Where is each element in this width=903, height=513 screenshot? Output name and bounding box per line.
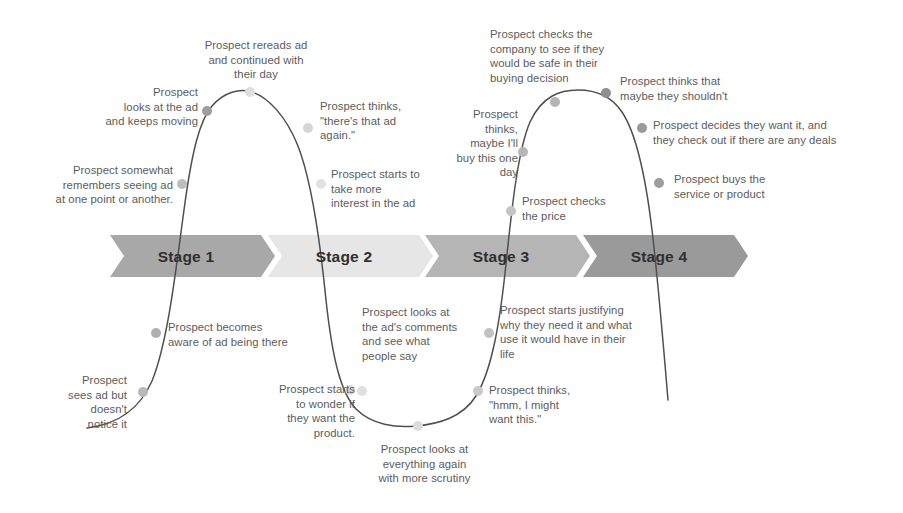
touchpoint-dot-thinks-maybe-they-shouldnt[interactable] (601, 88, 611, 98)
annotation-decides-they-want-it-check-deals: Prospect decides they want it, and they … (653, 118, 893, 147)
annotation-looks-at-ads-comments: Prospect looks at the ad's comments and … (362, 305, 492, 363)
touchpoint-dot-hmm-i-might-want-this[interactable] (473, 386, 483, 396)
annotation-rereads-ad-continued-day: Prospect rereads ad and continued with t… (186, 38, 326, 82)
touchpoint-dot-checks-company-safe-buying-decision[interactable] (550, 97, 560, 107)
annotation-checks-the-price: Prospect checks the price (522, 194, 637, 223)
annotation-hmm-i-might-want-this: Prospect thinks, "hmm, I might want this… (489, 383, 614, 427)
annotation-looks-at-ad-keeps-moving: Prospect looks at the ad and keeps movin… (72, 85, 198, 129)
stage-label-1: Stage 1 (126, 248, 246, 266)
touchpoint-dot-maybe-ill-buy-this-one-day[interactable] (518, 147, 528, 157)
touchpoint-dot-checks-the-price[interactable] (506, 206, 516, 216)
touchpoint-dot-theres-that-ad-again[interactable] (303, 123, 313, 133)
stage-label-3: Stage 3 (441, 248, 561, 266)
annotation-looks-at-everything-again: Prospect looks at everything again with … (362, 442, 487, 486)
touchpoint-dot-sees-ad-but-doesnt-notice[interactable] (138, 387, 148, 397)
annotation-maybe-ill-buy-this-one-day: Prospect thinks, maybe I'll buy this one… (438, 107, 518, 180)
touchpoint-dot-rereads-ad-continued-day[interactable] (245, 87, 255, 97)
annotation-theres-that-ad-again: Prospect thinks, "there's that ad again.… (320, 99, 440, 143)
annotation-starts-justifying-why-need-it: Prospect starts justifying why they need… (500, 303, 680, 361)
annotation-starts-to-wonder-if-want-product: Prospect starts to wonder if they want t… (245, 382, 355, 440)
touchpoint-dot-starts-to-wonder-if-want-product[interactable] (357, 386, 367, 396)
touchpoint-dot-looks-at-everything-again[interactable] (413, 421, 423, 431)
touchpoint-dot-somewhat-remembers-seeing-ad[interactable] (177, 179, 187, 189)
touchpoint-dot-buys-the-service-or-product[interactable] (654, 178, 664, 188)
touchpoint-dot-looks-at-ad-keeps-moving[interactable] (202, 106, 212, 116)
annotation-buys-the-service-or-product: Prospect buys the service or product (674, 172, 814, 201)
touchpoint-dot-decides-they-want-it-check-deals[interactable] (637, 123, 647, 133)
journey-diagram-canvas: Prospect sees ad but doesn't notice itPr… (0, 0, 903, 513)
stage-label-4: Stage 4 (599, 248, 719, 266)
annotation-thinks-maybe-they-shouldnt: Prospect thinks that maybe they shouldn'… (620, 74, 780, 103)
touchpoint-dot-starts-to-take-more-interest[interactable] (316, 179, 326, 189)
touchpoint-dot-becomes-aware-of-ad[interactable] (151, 328, 161, 338)
annotation-somewhat-remembers-seeing-ad: Prospect somewhat remembers seeing ad at… (28, 163, 173, 207)
annotation-sees-ad-but-doesnt-notice: Prospect sees ad but doesn't notice it (12, 373, 127, 431)
annotation-becomes-aware-of-ad: Prospect becomes aware of ad being there (168, 320, 353, 349)
stage-label-2: Stage 2 (284, 248, 404, 266)
